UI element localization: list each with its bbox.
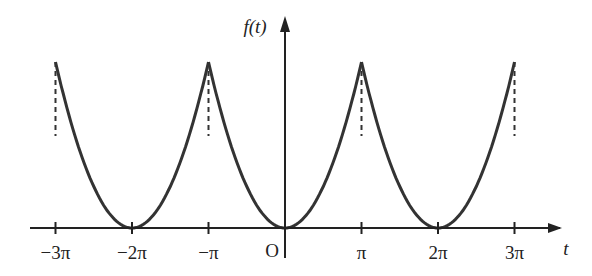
function-plot bbox=[0, 0, 592, 276]
y-axis-label: f(t) bbox=[243, 16, 266, 38]
axes bbox=[30, 16, 562, 258]
x-tick-label: −π bbox=[198, 242, 218, 264]
x-tick-label: 2π bbox=[428, 242, 447, 264]
y-axis-arrow-icon bbox=[280, 16, 290, 32]
x-tick-label: −2π bbox=[117, 242, 147, 264]
parabola-segment bbox=[362, 62, 515, 228]
parabola-segment bbox=[56, 62, 209, 228]
x-tick-label: −3π bbox=[41, 242, 71, 264]
x-tick-label: π bbox=[357, 242, 367, 264]
x-axis-label: t bbox=[563, 238, 568, 260]
x-tick-label: 3π bbox=[505, 242, 524, 264]
origin-label: O bbox=[265, 240, 279, 262]
x-axis-arrow-icon bbox=[548, 223, 562, 233]
